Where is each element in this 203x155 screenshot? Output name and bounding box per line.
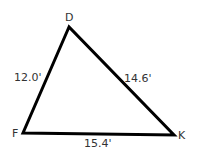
side-label-fk: 15.4' — [84, 137, 112, 150]
vertex-label-f: F — [12, 127, 18, 140]
vertex-label-k: K — [178, 129, 186, 142]
vertex-label-d: D — [65, 11, 73, 24]
triangle-diagram: D F K 12.0' 14.6' 15.4' — [0, 0, 203, 155]
side-label-df: 12.0' — [14, 71, 42, 84]
side-label-dk: 14.6' — [124, 72, 152, 85]
